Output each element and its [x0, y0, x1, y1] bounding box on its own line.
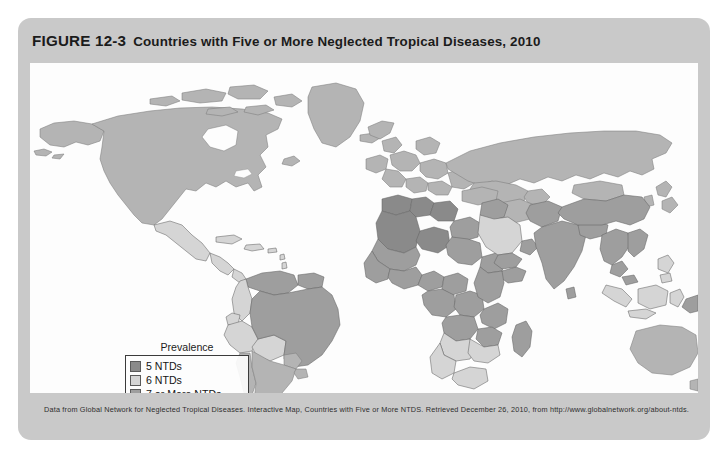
- source-note-text: Data from Global Network for Neglected T…: [44, 405, 688, 415]
- legend-title: Prevalence: [125, 341, 249, 353]
- legend-label-5-ntds: 5 NTDs: [146, 360, 182, 373]
- legend-item-5-ntds[interactable]: 5 NTDs: [130, 359, 244, 373]
- source-note: Data from Global Network for Neglected T…: [18, 398, 710, 440]
- legend-label-6-ntds: 6 NTDs: [146, 374, 182, 387]
- legend-item-7-or-more-ntds[interactable]: 7 or More NTDs: [130, 387, 244, 393]
- map-legend: Prevalence 5 NTDs 6 NTDs 7 or More NTDs: [125, 341, 249, 393]
- legend-label-7-or-more-ntds: 7 or More NTDs: [146, 388, 221, 394]
- legend-item-6-ntds[interactable]: 6 NTDs: [130, 373, 244, 387]
- figure-card: FIGURE 12-3Countries with Five or More N…: [18, 18, 710, 440]
- figure-header: FIGURE 12-3Countries with Five or More N…: [18, 18, 710, 62]
- map-panel: .ld { fill:#8a8a8a; stroke:#646464; stro…: [30, 63, 698, 393]
- figure-number: FIGURE 12-3: [32, 32, 126, 49]
- legend-box: 5 NTDs 6 NTDs 7 or More NTDs: [125, 355, 249, 393]
- figure-title-line: FIGURE 12-3Countries with Five or More N…: [32, 32, 541, 49]
- legend-swatch-6-ntds: [130, 375, 141, 386]
- figure-title: Countries with Five or More Neglected Tr…: [133, 34, 540, 49]
- legend-swatch-7-or-more-ntds: [130, 389, 141, 394]
- legend-swatch-5-ntds: [130, 361, 141, 372]
